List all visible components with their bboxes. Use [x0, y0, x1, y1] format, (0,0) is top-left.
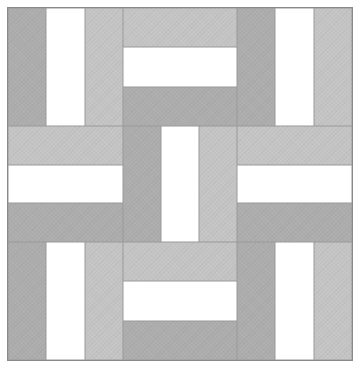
strip-dark	[8, 203, 123, 242]
strip-dark	[123, 87, 237, 126]
strip-white	[46, 8, 84, 126]
strip-white	[8, 165, 123, 204]
strip-light	[85, 8, 123, 126]
strip-light	[123, 8, 237, 47]
strip-dark	[237, 203, 352, 242]
strip-dark	[8, 242, 46, 360]
strip-light	[123, 242, 237, 281]
strip-light	[85, 242, 123, 360]
strip-dark	[237, 8, 275, 126]
strip-dark	[123, 126, 161, 242]
strip-light	[237, 126, 352, 165]
quilt-block-r2c2	[123, 126, 237, 242]
quilt-block-r1c1	[8, 8, 123, 126]
quilt-block-r3c3	[237, 242, 352, 360]
strip-light	[314, 242, 352, 360]
strip-dark	[237, 242, 275, 360]
quilt-block-r1c3	[237, 8, 352, 126]
quilt-block-r1c2	[123, 8, 237, 126]
strip-white	[275, 242, 313, 360]
quilt-block-r3c2	[123, 242, 237, 360]
quilt-grid	[8, 8, 352, 360]
strip-dark	[8, 8, 46, 126]
strip-white	[123, 281, 237, 320]
quilt-block-r2c3	[237, 126, 352, 242]
strip-white	[161, 126, 199, 242]
strip-light	[314, 8, 352, 126]
quilt-block-r2c1	[8, 126, 123, 242]
quilt-block-r3c1	[8, 242, 123, 360]
strip-light	[199, 126, 237, 242]
strip-white	[123, 47, 237, 86]
strip-white	[275, 8, 313, 126]
strip-light	[8, 126, 123, 165]
strip-white	[46, 242, 84, 360]
strip-dark	[123, 321, 237, 360]
strip-white	[237, 165, 352, 204]
